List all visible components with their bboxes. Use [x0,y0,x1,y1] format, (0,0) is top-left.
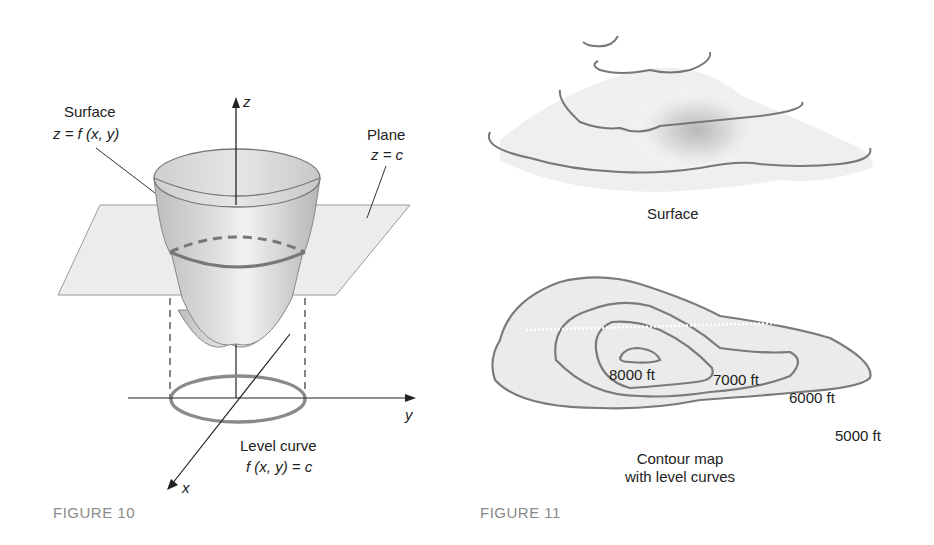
fig11-surface-label: Surface [647,205,699,223]
paraboloid-level-curve-illustration [0,0,440,545]
figure-11-caption: FIGURE 11 [480,504,561,521]
surface-contour-2 [594,52,710,73]
figure-10-caption: FIGURE 10 [53,504,135,521]
x-axis-label: x [182,479,190,497]
y-axis-label: y [405,406,413,424]
level-curve-equation: f (x, y) = c [246,458,312,476]
figure-10-diagram [0,0,440,545]
surface-label: Surface [64,103,116,121]
level-curve-ellipse [171,376,305,422]
contour-map-caption-line1: Contour map [620,450,740,468]
y-axis-arrowhead [405,394,416,402]
contour-label-8000: 8000 ft [609,366,655,384]
plane-label: Plane [367,126,405,144]
x-axis-arrowhead [167,479,178,490]
contour-label-7000: 7000 ft [713,371,759,389]
level-curve-label: Level curve [240,437,317,455]
contour-map-caption-line2: with level curves [600,468,760,486]
z-axis-label: z [243,93,251,111]
plane-equation: z = c [371,146,403,164]
z-axis-arrowhead [232,97,240,108]
surface-equation: z = f (x, y) [53,125,119,143]
contour-label-6000: 6000 ft [789,389,835,407]
contour-label-5000: 5000 ft [835,427,881,445]
surface-contour-top [583,36,618,46]
